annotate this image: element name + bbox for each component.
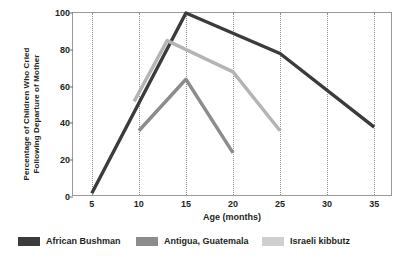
series-line-antigua-guatemala — [139, 79, 233, 153]
legend-label: Antigua, Guatemala — [164, 236, 249, 246]
legend-item-african-bushman[interactable]: African Bushman — [18, 236, 121, 246]
legend-swatch-icon — [136, 237, 158, 246]
x-tick-label-30: 30 — [322, 199, 332, 209]
y-axis-title-line-2: Following Departure of Mother — [32, 24, 42, 204]
series-line-israeli-kibbutz — [134, 41, 280, 131]
x-axis-title: Age (months) — [72, 212, 392, 222]
legend-swatch-icon — [262, 237, 284, 246]
legend-item-antigua-guatemala[interactable]: Antigua, Guatemala — [136, 236, 249, 246]
chart-legend: African BushmanAntigua, GuatemalaIsraeli… — [0, 234, 404, 254]
series-line-african-bushman — [92, 13, 374, 193]
line-chart: Percentage of Children Who Cried Followi… — [0, 0, 404, 264]
y-axis-title: Percentage of Children Who Cried Followi… — [22, 24, 42, 204]
legend-item-israeli-kibbutz[interactable]: Israeli kibbutz — [262, 236, 350, 246]
x-tick-label-20: 20 — [228, 199, 238, 209]
legend-swatch-icon — [18, 237, 40, 246]
legend-label: African Bushman — [46, 236, 121, 246]
y-axis-title-line-1: Percentage of Children Who Cried — [22, 24, 32, 204]
x-tick-label-15: 15 — [181, 199, 191, 209]
series-lines — [73, 13, 393, 197]
plot-area: 020406080100 5101520253035 — [72, 12, 392, 196]
x-tick-label-25: 25 — [275, 199, 285, 209]
legend-label: Israeli kibbutz — [290, 236, 350, 246]
x-tick-label-35: 35 — [369, 199, 379, 209]
x-tick-label-10: 10 — [134, 199, 144, 209]
x-tick-label-5: 5 — [89, 199, 94, 209]
